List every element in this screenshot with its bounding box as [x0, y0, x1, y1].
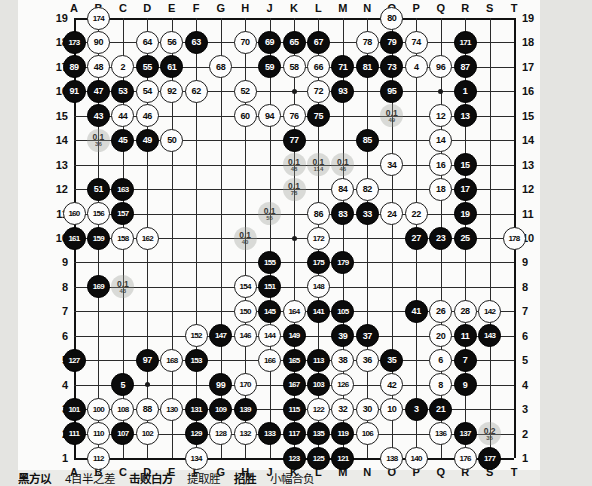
black-stone[interactable]: 21	[429, 398, 452, 421]
white-stone[interactable]: 146	[234, 324, 257, 347]
black-stone[interactable]: 159	[87, 227, 110, 250]
black-stone[interactable]: 45	[111, 129, 134, 152]
white-stone[interactable]: 140	[405, 447, 428, 470]
black-stone[interactable]: 123	[283, 447, 306, 470]
white-stone[interactable]: 108	[111, 398, 134, 421]
black-stone[interactable]: 65	[283, 31, 306, 54]
black-stone[interactable]: 13	[454, 104, 477, 127]
black-stone[interactable]: 5	[111, 373, 134, 396]
black-stone[interactable]: 87	[454, 55, 477, 78]
white-stone[interactable]: 152	[185, 324, 208, 347]
white-stone[interactable]: 34	[380, 153, 403, 176]
white-stone[interactable]: 176	[454, 447, 477, 470]
black-stone[interactable]: 173	[63, 31, 86, 54]
black-stone[interactable]: 61	[160, 55, 183, 78]
white-stone[interactable]: 128	[209, 422, 232, 445]
white-stone[interactable]: 96	[429, 55, 452, 78]
black-stone[interactable]: 15	[454, 153, 477, 176]
white-stone[interactable]: 62	[185, 80, 208, 103]
black-stone[interactable]: 17	[454, 178, 477, 201]
white-stone[interactable]: 102	[136, 422, 159, 445]
black-stone[interactable]: 55	[136, 55, 159, 78]
white-stone[interactable]: 84	[331, 178, 354, 201]
white-stone[interactable]: 72	[307, 80, 330, 103]
white-stone[interactable]: 136	[429, 422, 452, 445]
white-stone[interactable]: 14	[429, 129, 452, 152]
black-stone[interactable]: 169	[87, 275, 110, 298]
white-stone[interactable]: 64	[136, 31, 159, 54]
black-stone[interactable]: 113	[307, 349, 330, 372]
black-stone[interactable]: 53	[111, 80, 134, 103]
black-stone[interactable]: 163	[111, 178, 134, 201]
black-stone[interactable]: 111	[63, 422, 86, 445]
white-stone[interactable]: 10	[380, 398, 403, 421]
black-stone[interactable]: 141	[307, 300, 330, 323]
black-stone[interactable]: 19	[454, 202, 477, 225]
black-stone[interactable]: 37	[356, 324, 379, 347]
white-stone[interactable]: 148	[307, 275, 330, 298]
white-stone[interactable]: 138	[380, 447, 403, 470]
white-stone[interactable]: 24	[380, 202, 403, 225]
white-stone[interactable]: 76	[283, 104, 306, 127]
white-stone[interactable]: 26	[429, 300, 452, 323]
white-stone[interactable]: 4	[405, 55, 428, 78]
black-stone[interactable]: 81	[356, 55, 379, 78]
black-stone[interactable]: 11	[454, 324, 477, 347]
black-stone[interactable]: 131	[185, 398, 208, 421]
black-stone[interactable]: 73	[380, 55, 403, 78]
white-stone[interactable]: 74	[405, 31, 428, 54]
black-stone[interactable]: 77	[283, 129, 306, 152]
white-stone[interactable]: 94	[258, 104, 281, 127]
white-stone[interactable]: 38	[331, 349, 354, 372]
black-stone[interactable]: 155	[258, 251, 281, 274]
black-stone[interactable]: 85	[356, 129, 379, 152]
black-stone[interactable]: 83	[331, 202, 354, 225]
black-stone[interactable]: 161	[63, 227, 86, 250]
white-stone[interactable]: 90	[87, 31, 110, 54]
white-stone[interactable]: 166	[258, 349, 281, 372]
white-stone[interactable]: 130	[160, 398, 183, 421]
white-stone[interactable]: 30	[356, 398, 379, 421]
black-stone[interactable]: 103	[307, 373, 330, 396]
white-stone[interactable]: 60	[234, 104, 257, 127]
white-stone[interactable]: 122	[307, 398, 330, 421]
black-stone[interactable]: 179	[331, 251, 354, 274]
white-stone[interactable]: 42	[380, 373, 403, 396]
black-stone[interactable]: 139	[234, 398, 257, 421]
white-stone[interactable]: 82	[356, 178, 379, 201]
black-stone[interactable]: 119	[331, 422, 354, 445]
black-stone[interactable]: 39	[331, 324, 354, 347]
black-stone[interactable]: 3	[405, 398, 428, 421]
white-stone[interactable]: 52	[234, 80, 257, 103]
black-stone[interactable]: 147	[209, 324, 232, 347]
black-stone[interactable]: 47	[87, 80, 110, 103]
black-stone[interactable]: 101	[63, 398, 86, 421]
white-stone[interactable]: 170	[234, 373, 257, 396]
white-stone[interactable]: 22	[405, 202, 428, 225]
black-stone[interactable]: 143	[478, 324, 501, 347]
white-stone[interactable]: 8	[429, 373, 452, 396]
white-stone[interactable]: 66	[307, 55, 330, 78]
white-stone[interactable]: 86	[307, 202, 330, 225]
black-stone[interactable]: 127	[63, 349, 86, 372]
white-stone[interactable]: 134	[185, 447, 208, 470]
black-stone[interactable]: 9	[454, 373, 477, 396]
black-stone[interactable]: 69	[258, 31, 281, 54]
black-stone[interactable]: 175	[307, 251, 330, 274]
white-stone[interactable]: 126	[331, 373, 354, 396]
white-stone[interactable]: 100	[87, 398, 110, 421]
black-stone[interactable]: 51	[87, 178, 110, 201]
black-stone[interactable]: 99	[209, 373, 232, 396]
black-stone[interactable]: 133	[258, 422, 281, 445]
white-stone[interactable]: 80	[380, 7, 403, 30]
black-stone[interactable]: 41	[405, 300, 428, 323]
white-stone[interactable]: 54	[136, 80, 159, 103]
black-stone[interactable]: 75	[307, 104, 330, 127]
black-stone[interactable]: 89	[63, 55, 86, 78]
white-stone[interactable]: 168	[160, 349, 183, 372]
black-stone[interactable]: 1	[454, 80, 477, 103]
black-stone[interactable]: 125	[307, 447, 330, 470]
white-stone[interactable]: 154	[234, 275, 257, 298]
white-stone[interactable]: 58	[283, 55, 306, 78]
white-stone[interactable]: 56	[160, 31, 183, 54]
